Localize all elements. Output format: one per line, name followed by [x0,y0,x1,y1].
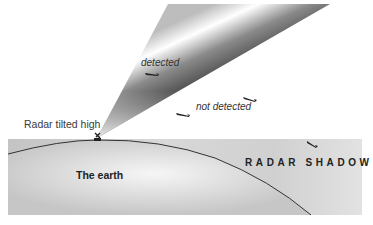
radar-beam-fade [97,4,330,138]
detected-label: detected [141,58,179,68]
earth-label: The earth [76,170,123,181]
aircraft-low-icon [176,113,190,117]
radar-shadow-label: RADAR SHADOW [245,158,373,168]
not-detected-label: not detected [196,102,251,112]
radar-label: Radar tilted high [24,119,100,130]
